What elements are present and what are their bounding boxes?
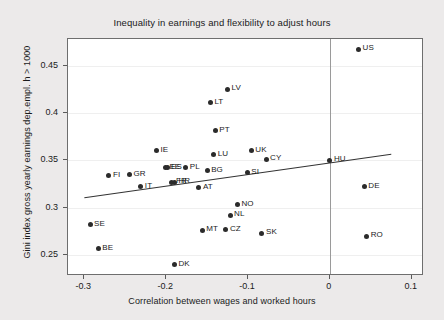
data-point[interactable] — [172, 262, 177, 267]
y-tick-label-4: 0.45 — [40, 60, 58, 70]
data-point[interactable] — [172, 180, 177, 185]
x-tick-label-0: -0.3 — [76, 281, 92, 291]
y-tick-mark-2 — [63, 159, 67, 160]
data-point-label: DE — [368, 181, 379, 190]
x-axis-title: Correlation between wages and worked hou… — [0, 296, 444, 306]
data-point[interactable] — [96, 246, 101, 251]
data-point-label: IE — [160, 145, 168, 154]
y-tick-label-1: 0.3 — [45, 202, 58, 212]
data-point-label: DK — [178, 259, 189, 268]
data-point[interactable] — [356, 47, 361, 52]
x-tick-label-4: 0.1 — [404, 281, 417, 291]
data-point-label: BG — [211, 165, 223, 174]
screenshot-root: Inequality in earnings and flexibility t… — [0, 0, 444, 320]
x-tick-mark-3 — [329, 275, 330, 279]
y-tick-mark-1 — [63, 207, 67, 208]
data-point[interactable] — [364, 234, 369, 239]
data-point[interactable] — [200, 228, 205, 233]
data-point-label: LU — [218, 149, 228, 158]
data-point[interactable] — [228, 213, 233, 218]
x-tick-mark-4 — [411, 275, 412, 279]
regression-fit-line — [68, 39, 422, 274]
data-point[interactable] — [245, 170, 250, 175]
data-point-label: PT — [219, 125, 229, 134]
plot-area: USLVLTPTIEUKLUCYHUEEESPLBGSIGRFIFRHRITDE… — [67, 38, 423, 275]
data-point-label: BE — [102, 243, 113, 252]
data-point[interactable] — [264, 157, 269, 162]
y-tick-mark-4 — [63, 65, 67, 66]
data-point-label: CZ — [230, 224, 241, 233]
data-point-label: UK — [255, 145, 266, 154]
data-point-label: SE — [94, 219, 105, 228]
x-tick-mark-0 — [83, 275, 84, 279]
data-point-label: FI — [113, 170, 120, 179]
y-tick-mark-0 — [63, 254, 67, 255]
data-point-label: US — [363, 43, 374, 52]
data-point-label: LT — [214, 97, 223, 106]
data-point-label: CY — [270, 153, 281, 162]
data-point-label: MT — [206, 224, 218, 233]
data-point-label: SI — [251, 167, 259, 176]
data-point-label: RO — [371, 230, 383, 239]
data-point[interactable] — [208, 100, 213, 105]
data-point[interactable] — [225, 87, 230, 92]
data-point-label: PL — [190, 162, 200, 171]
data-point[interactable] — [88, 222, 93, 227]
y-tick-label-2: 0.35 — [40, 154, 58, 164]
x-tick-label-2: -0.1 — [239, 281, 255, 291]
x-tick-label-1: -0.2 — [157, 281, 173, 291]
data-point-label: HR — [178, 176, 190, 185]
data-point-label: NL — [234, 209, 244, 218]
data-point-label: HU — [334, 154, 346, 163]
data-point[interactable] — [205, 168, 210, 173]
data-point-label: SK — [266, 227, 277, 236]
data-point-label: LV — [232, 83, 241, 92]
data-point-label: IT — [145, 181, 152, 190]
y-tick-label-3: 0.4 — [45, 107, 58, 117]
x-tick-label-3: 0 — [326, 281, 331, 291]
data-point-label: GR — [133, 169, 145, 178]
x-tick-mark-2 — [247, 275, 248, 279]
scatter-chart-figure: Inequality in earnings and flexibility t… — [0, 0, 444, 320]
data-point-label: ES — [171, 162, 182, 171]
data-point[interactable] — [127, 172, 132, 177]
y-axis-title: Gini index gross yearly earnings dep.emp… — [22, 22, 32, 282]
y-tick-mark-3 — [63, 112, 67, 113]
y-tick-label-0: 0.25 — [40, 249, 58, 259]
data-point-label: AT — [203, 182, 213, 191]
chart-title: Inequality in earnings and flexibility t… — [0, 17, 444, 28]
data-point-label: NO — [241, 199, 253, 208]
x-tick-mark-1 — [165, 275, 166, 279]
